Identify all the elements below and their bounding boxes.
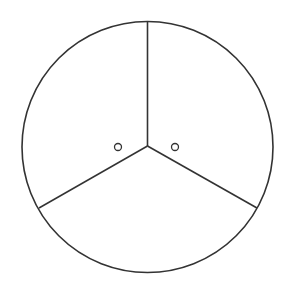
sector-diagram — [0, 0, 288, 288]
diagram-canvas — [0, 0, 288, 288]
radial-lines — [39, 22, 257, 209]
right-marker — [172, 144, 179, 151]
left-marker — [115, 144, 122, 151]
radial-line-lower-right — [148, 146, 258, 208]
radial-line-lower-left — [39, 146, 148, 208]
